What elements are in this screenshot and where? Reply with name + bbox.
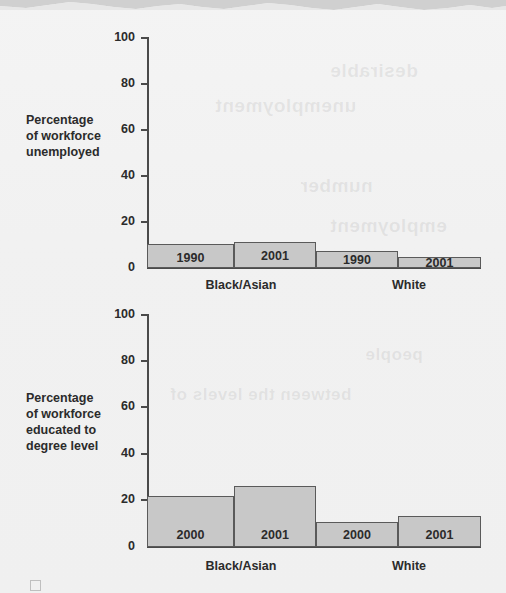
y-tick-40: [141, 453, 147, 455]
bar-white-2000[interactable]: [316, 522, 398, 548]
y-tick-80: [141, 360, 147, 362]
degree-level-bar-chart: Percentage of workforce educated to degr…: [0, 0, 506, 593]
y-tick-label-100: 100: [101, 307, 135, 321]
bar-black-asian-2000[interactable]: [147, 496, 234, 547]
bar-black-asian-2001[interactable]: [234, 486, 316, 548]
y-tick-label-0: 0: [101, 539, 135, 553]
group-label-black-asian: Black/Asian: [181, 559, 301, 573]
axis-title-line: educated to: [26, 422, 144, 438]
bar-white-2001[interactable]: [398, 516, 481, 547]
y-tick-60: [141, 406, 147, 408]
y-tick-label-40: 40: [101, 446, 135, 460]
group-label-white: White: [349, 559, 469, 573]
y-tick-label-20: 20: [101, 492, 135, 506]
y-tick-100: [141, 314, 147, 316]
page-footer-mark: [30, 580, 41, 591]
y-tick-label-60: 60: [101, 399, 135, 413]
y-tick-label-80: 80: [101, 353, 135, 367]
